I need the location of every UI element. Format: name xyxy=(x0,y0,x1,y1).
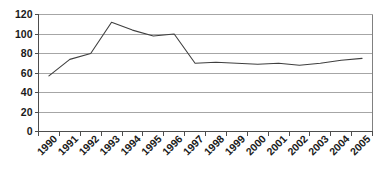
y-tick-label-80: 80 xyxy=(21,47,33,59)
line-chart: 020406080100120 199019911992199319941995… xyxy=(0,0,390,178)
chart-canvas: 020406080100120 199019911992199319941995… xyxy=(0,0,390,178)
y-tick-label-20: 20 xyxy=(21,106,33,118)
y-tick-label-120: 120 xyxy=(15,8,33,20)
y-tick-label-60: 60 xyxy=(21,67,33,79)
y-tick-label-100: 100 xyxy=(15,28,33,40)
y-tick-label-0: 0 xyxy=(27,125,33,137)
y-tick-label-40: 40 xyxy=(21,86,33,98)
